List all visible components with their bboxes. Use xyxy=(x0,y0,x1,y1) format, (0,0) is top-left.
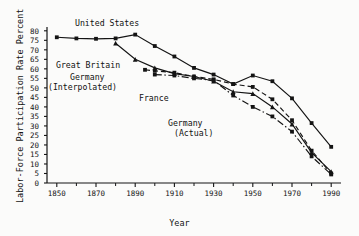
data-point xyxy=(271,79,275,83)
data-point xyxy=(173,74,177,78)
annotation-united-states: United States xyxy=(75,18,139,28)
annotation-germany-actual-line1: Germany xyxy=(168,118,203,128)
x-tick-label: 1910 xyxy=(159,189,189,198)
data-point xyxy=(153,73,157,77)
data-point xyxy=(329,173,333,177)
y-tick-label: 10 xyxy=(21,160,39,169)
data-point xyxy=(251,74,255,78)
data-point xyxy=(192,66,196,70)
annotation-france: France xyxy=(139,93,169,103)
y-tick-label: 40 xyxy=(21,103,39,112)
x-tick-label: 1950 xyxy=(238,189,268,198)
y-tick-label: 65 xyxy=(21,55,39,64)
x-tick-label: 1970 xyxy=(277,189,307,198)
data-point xyxy=(143,68,147,72)
y-tick-label: 35 xyxy=(21,112,39,121)
data-point xyxy=(153,69,157,73)
y-tick-label: 0 xyxy=(21,179,39,188)
y-tick-label: 75 xyxy=(21,36,39,45)
x-tick-label: 1930 xyxy=(199,189,229,198)
data-point xyxy=(212,73,216,77)
data-point xyxy=(153,44,157,48)
data-point xyxy=(173,55,177,59)
data-point xyxy=(231,94,235,98)
y-tick-label: 5 xyxy=(21,169,39,178)
data-point xyxy=(133,33,137,37)
x-axis-ticks xyxy=(57,183,331,187)
x-tick-label: 1890 xyxy=(120,189,150,198)
data-point xyxy=(290,130,294,134)
data-point xyxy=(55,35,59,39)
annotation-germany-interpolated-line2: (Interpolated) xyxy=(48,82,117,92)
x-tick-label: 1850 xyxy=(42,189,72,198)
y-tick-label: 55 xyxy=(21,74,39,83)
data-point xyxy=(114,37,118,41)
x-tick-label: 1870 xyxy=(81,189,111,198)
data-point xyxy=(94,37,98,41)
data-point xyxy=(251,105,255,109)
chart-series-layer xyxy=(55,33,334,177)
data-point xyxy=(113,41,118,46)
y-tick-label: 80 xyxy=(21,27,39,36)
y-tick-label: 25 xyxy=(21,131,39,140)
data-point xyxy=(212,78,216,82)
y-tick-label: 45 xyxy=(21,93,39,102)
y-tick-label: 15 xyxy=(21,150,39,159)
x-tick-label: 1990 xyxy=(316,189,346,198)
series-great-britain xyxy=(113,41,333,174)
data-point xyxy=(75,37,79,41)
data-point xyxy=(231,82,235,86)
data-point xyxy=(329,145,333,149)
data-point xyxy=(310,149,314,153)
data-point xyxy=(251,85,255,89)
data-point xyxy=(290,118,294,122)
data-point xyxy=(310,121,314,125)
y-tick-label: 60 xyxy=(21,65,39,74)
annotation-germany-actual-line2: (Actual) xyxy=(174,128,213,138)
y-tick-label: 30 xyxy=(21,122,39,131)
data-point xyxy=(271,115,275,119)
data-point xyxy=(310,154,314,158)
y-tick-label: 70 xyxy=(21,46,39,55)
chart-figure: Labor-Force Participation Rate Percent Y… xyxy=(0,0,359,236)
data-point xyxy=(271,97,275,101)
annotation-great-britain: Great Britain xyxy=(56,60,120,70)
x-axis-title: Year xyxy=(0,218,359,228)
annotation-germany-interpolated-line1: Germany xyxy=(70,72,105,82)
y-tick-label: 50 xyxy=(21,84,39,93)
y-tick-label: 20 xyxy=(21,141,39,150)
data-point xyxy=(192,76,196,80)
data-point xyxy=(290,96,294,100)
